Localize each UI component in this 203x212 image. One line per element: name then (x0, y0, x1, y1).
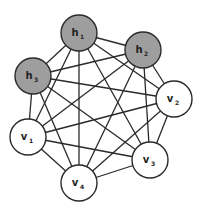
node-h2: h2 (125, 32, 161, 68)
node-label: v (21, 131, 28, 142)
node-label: v (167, 93, 174, 104)
node-label: v (72, 177, 79, 188)
node-label: h (71, 27, 78, 38)
nodes-layer: h1h2h3v2v1v3v4 (10, 15, 192, 201)
network-diagram: h1h2h3v2v1v3v4 (0, 0, 203, 212)
node-subscript: 3 (151, 160, 155, 167)
node-label: h (135, 44, 142, 55)
node-v4: v4 (61, 165, 97, 201)
node-subscript: 3 (34, 76, 38, 83)
node-label: v (143, 154, 150, 165)
node-subscript: 2 (144, 50, 148, 57)
node-label: h (25, 70, 32, 81)
node-h3: h3 (15, 58, 51, 94)
node-v1: v1 (10, 119, 46, 155)
node-subscript: 1 (29, 137, 33, 144)
node-subscript: 4 (80, 183, 84, 190)
node-h1: h1 (61, 15, 97, 51)
node-v2: v2 (156, 81, 192, 117)
node-subscript: 2 (175, 99, 179, 106)
node-v3: v3 (132, 142, 168, 178)
node-subscript: 1 (80, 33, 84, 40)
